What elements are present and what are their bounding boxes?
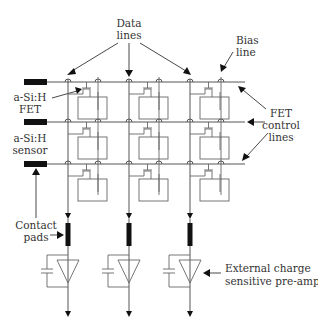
arrowhead-icon — [57, 231, 64, 239]
arrowhead-icon — [220, 64, 227, 72]
readout-col3 — [163, 219, 201, 317]
pixel-r1-c3 — [190, 82, 229, 119]
contact-pads-label: Contact pads — [15, 219, 57, 243]
readout-chain — [41, 219, 201, 317]
arrowhead-icon — [183, 67, 191, 75]
arrowhead-icon — [32, 168, 40, 175]
detector-array-diagram: Data lines Bias line a-Si:H FET a-Si:H s… — [0, 0, 318, 329]
data-lines — [65, 79, 193, 219]
fet-control-lines-label: FET control lines — [262, 107, 301, 143]
preamp-label-line2: sensitive pre-amp — [225, 275, 318, 287]
arrowhead-icon — [247, 118, 254, 126]
arrowhead-icon — [187, 213, 193, 219]
preamp-label: External charge sensitive pre-amp — [225, 262, 318, 287]
data-lines-label-line1: Data — [116, 17, 141, 29]
gate-pad-row2 — [24, 119, 47, 125]
pixel-r1-c2 — [129, 82, 168, 119]
preamp-label-line1: External charge — [225, 262, 311, 274]
fet-control-label-line2: control — [262, 119, 301, 131]
data-arrow-right-icon — [140, 43, 186, 71]
pixel-r2-c2 — [129, 122, 168, 159]
data-lines-label-line2: lines — [116, 29, 141, 41]
fet-arrow-icon — [52, 91, 77, 98]
bias-arrow-icon — [224, 52, 233, 67]
fet-label: a-Si:H FET — [13, 91, 46, 115]
control-arrow-bottom-icon — [246, 133, 268, 157]
arrowhead-icon — [65, 213, 71, 219]
arrowhead-icon — [126, 213, 132, 219]
sensor-label-line1: a-Si:H — [13, 132, 46, 144]
fet-control-label-line3: lines — [268, 131, 293, 143]
arrowhead-icon — [75, 87, 82, 94]
gate-pad-row3 — [24, 161, 47, 167]
data-arrow-left-icon — [72, 43, 118, 71]
arrowhead-icon — [125, 70, 133, 77]
pixel-r3-c2 — [129, 164, 168, 201]
pixel-r1-c1 — [68, 82, 107, 119]
fet-label-line2: FET — [19, 103, 41, 115]
pixel-array — [68, 82, 229, 201]
fet-label-line1: a-Si:H — [13, 91, 46, 103]
pixel-r2-c3 — [190, 122, 229, 159]
pixel-r3-c1 — [68, 164, 107, 201]
bias-line-label: Bias line — [236, 34, 259, 58]
pixel-r3-c3 — [190, 164, 229, 201]
readout-col2 — [102, 219, 140, 317]
contact-pads-label-line1: Contact — [15, 219, 57, 231]
data-lines-label: Data lines — [116, 17, 141, 41]
bias-lines — [95, 77, 224, 195]
sensor-label: a-Si:H sensor — [12, 132, 48, 156]
arrowhead-icon — [203, 269, 210, 277]
control-arrow-top-icon — [243, 90, 266, 109]
sensor-label-line2: sensor — [12, 144, 48, 156]
bias-line-label-line2: line — [236, 46, 256, 58]
bias-line-label-line1: Bias — [236, 34, 259, 46]
gate-pad-row1 — [24, 79, 47, 85]
fet-control-label-line1: FET — [270, 107, 292, 119]
pixel-r2-c1 — [68, 122, 107, 159]
contact-pads-label-line2: pads — [23, 231, 48, 243]
